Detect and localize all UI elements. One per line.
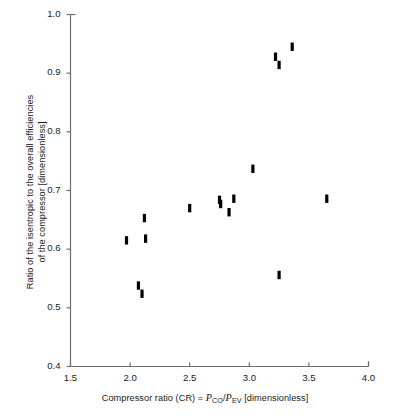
data-point-marker (232, 195, 235, 203)
scatter-chart-figure: Ratio of the isentropic to the overall e… (0, 0, 399, 419)
data-point-marker (143, 214, 146, 222)
data-point-marker (278, 271, 281, 279)
plot-canvas (0, 0, 399, 419)
data-point-marker (188, 204, 191, 212)
data-point-marker (251, 165, 254, 173)
data-point-marker (125, 236, 128, 244)
data-point-marker (227, 208, 230, 216)
data-point-marker (291, 43, 294, 51)
data-point-marker (140, 290, 143, 298)
data-point-marker (274, 53, 277, 61)
data-point-marker (144, 234, 147, 242)
data-point-marker (219, 200, 222, 208)
data-point-marker (325, 195, 328, 203)
data-point-marker (278, 61, 281, 69)
data-point-marker (137, 281, 140, 289)
